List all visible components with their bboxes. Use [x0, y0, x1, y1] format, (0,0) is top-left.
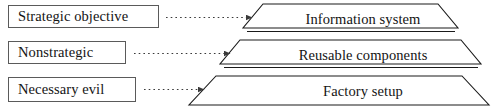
pyramid-tier-label-reusable-components: Reusable components [249, 48, 477, 63]
pyramid-diagram: Strategic objective Nonstrategic Necessa… [0, 0, 502, 112]
pyramid-tier-label-information-system: Information system [259, 12, 467, 27]
pyramid-tier-label-factory-setup: Factory setup [239, 84, 487, 99]
